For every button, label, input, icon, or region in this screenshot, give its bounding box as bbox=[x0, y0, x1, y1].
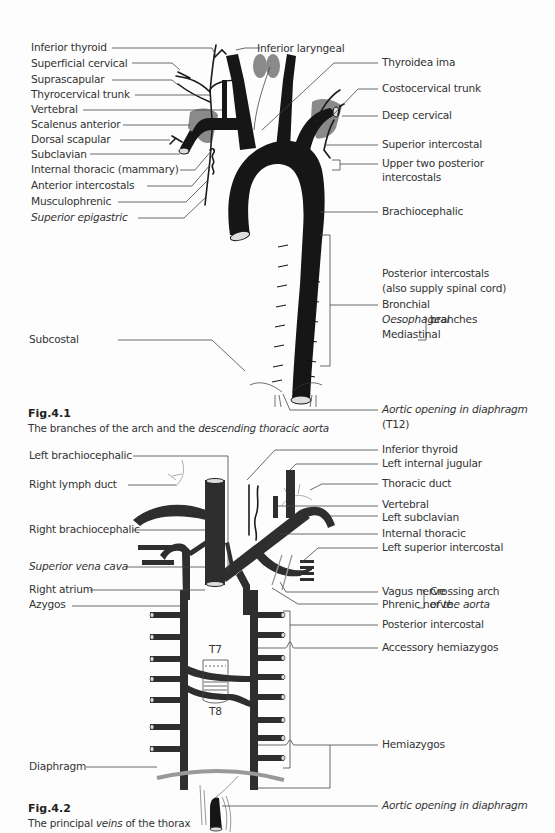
label-superior-vena-cava: Superior vena cava bbox=[29, 560, 128, 572]
thyroid-lobe-right bbox=[266, 54, 280, 78]
label-scalenus-anterior: Scalenus anterior bbox=[31, 118, 121, 130]
label-deep-cervical: Deep cervical bbox=[382, 109, 452, 121]
label-t7: T7 bbox=[208, 643, 222, 655]
label-anterior-intercostals: Anterior intercostals bbox=[31, 179, 134, 191]
fig-4-1-illustration bbox=[170, 45, 344, 407]
label-superior-intercostal: Superior intercostal bbox=[382, 138, 482, 150]
label-right-brachiocephalic: Right brachiocephalic bbox=[29, 523, 140, 535]
dorsal-scapular bbox=[170, 136, 182, 144]
anatomy-figure-page: Inferior thyroid Superficial cervical Su… bbox=[0, 0, 555, 833]
superficial-cervical-artery bbox=[176, 72, 210, 92]
left-posterior-intercostals bbox=[256, 612, 284, 761]
fig-4-2-illustration bbox=[133, 460, 335, 832]
label-diaphragm: Diaphragm bbox=[29, 760, 86, 772]
label-of-the-aorta: of the aorta bbox=[430, 598, 490, 610]
label-t12: (T12) bbox=[382, 418, 409, 430]
label-thyroidea-ima: Thyroidea ima bbox=[381, 56, 455, 68]
label-vertebral: Vertebral bbox=[31, 103, 78, 115]
label-upper-two-posterior: Upper two posterior bbox=[382, 157, 485, 169]
right-intercostal-upper-1 bbox=[138, 545, 173, 550]
diaphragm-crura bbox=[250, 383, 322, 407]
left-brachiocephalic-descending bbox=[236, 570, 250, 615]
label-left-brachiocephalic: Left brachiocephalic bbox=[29, 449, 132, 461]
label-left-superior-intercostal: Left superior intercostal bbox=[382, 541, 503, 553]
right-lymph-duct bbox=[168, 460, 184, 486]
superior-vena-cava bbox=[205, 480, 225, 585]
label-thoracic-duct: Thoracic duct bbox=[381, 477, 451, 489]
fig-4-2-caption: The principal veins of the thorax bbox=[27, 817, 190, 829]
fig-4-2-leader-lines bbox=[72, 450, 424, 806]
svc-top-end bbox=[206, 479, 224, 484]
aorta-cut-end-bottom bbox=[291, 396, 311, 404]
label-azygos: Azygos bbox=[29, 598, 66, 610]
svc-bottom-end bbox=[206, 582, 224, 587]
fig-4-1-leader-lines bbox=[83, 48, 426, 410]
vertebral-artery bbox=[222, 80, 227, 118]
subclavian-stump-end bbox=[179, 148, 189, 154]
vertebral-vein bbox=[273, 496, 278, 518]
thyroid-lobe-left bbox=[253, 54, 267, 78]
label-internal-thoracic: Internal thoracic (mammary) bbox=[31, 163, 179, 175]
left-internal-jugular-vein bbox=[286, 470, 295, 518]
label-left-internal-jugular: Left internal jugular bbox=[382, 457, 483, 469]
right-brachiocephalic-vein bbox=[133, 505, 206, 526]
label-thyrocervical-trunk: Thyrocervical trunk bbox=[30, 88, 131, 100]
fig-4-1-caption: The branches of the arch and the descend… bbox=[27, 422, 329, 434]
svc-tributary bbox=[188, 540, 206, 556]
cross-communicating-vein-upper bbox=[184, 665, 252, 682]
label-right-atrium: Right atrium bbox=[29, 583, 93, 595]
right-intercostal-upper-2 bbox=[142, 560, 174, 565]
label-posterior-intercostal: Posterior intercostal bbox=[382, 618, 484, 630]
label-hemiazygos: Hemiazygos bbox=[382, 738, 445, 750]
label-dorsal-scapular: Dorsal scapular bbox=[31, 133, 111, 145]
label-subcostal: Subcostal bbox=[29, 333, 79, 345]
label-superior-epigastric: Superior epigastric bbox=[31, 211, 128, 223]
label-inferior-thyroid: Inferior thyroid bbox=[31, 41, 107, 53]
label-right-lymph-duct: Right lymph duct bbox=[29, 478, 117, 490]
label-left-subclavian: Left subclavian bbox=[382, 511, 459, 523]
label-t8: T8 bbox=[208, 705, 222, 717]
label-mediastinal: Mediastinal bbox=[382, 328, 440, 340]
label-subclavian: Subclavian bbox=[31, 148, 87, 160]
fig-4-2-caption-title: Fig.4.2 bbox=[28, 802, 71, 815]
label-crossing-arch: Crossing arch bbox=[430, 585, 499, 597]
label-posterior-intercostals: Posterior intercostals bbox=[382, 267, 489, 279]
label-branches: branches bbox=[430, 313, 477, 325]
label-vertebral-vein: Vertebral bbox=[382, 498, 429, 510]
label-aortic-opening-1: Aortic opening in diaphragm bbox=[381, 403, 528, 415]
label-suprascapular: Suprascapular bbox=[31, 73, 105, 85]
label-intercostals: intercostals bbox=[382, 171, 441, 183]
label-inferior-thyroid-vein: Inferior thyroid bbox=[382, 443, 458, 455]
fig-4-1-caption-title: Fig.4.1 bbox=[28, 407, 71, 420]
right-posterior-intercostals bbox=[150, 612, 182, 752]
label-internal-thoracic-vein: Internal thoracic bbox=[382, 527, 466, 539]
label-accessory-hemiazygos: Accessory hemiazygos bbox=[382, 641, 498, 653]
label-musculophrenic: Musculophrenic bbox=[31, 195, 111, 207]
label-costocervical-trunk: Costocervical trunk bbox=[382, 82, 482, 94]
aorta-through-diaphragm bbox=[210, 797, 222, 830]
label-aortic-opening-2: Aortic opening in diaphragm bbox=[381, 799, 528, 811]
label-superficial-cervical: Superficial cervical bbox=[31, 57, 127, 69]
fig-4-1-labels: Inferior thyroid Superficial cervical Su… bbox=[27, 41, 528, 434]
left-intercostal-ends bbox=[281, 613, 285, 761]
inferior-thyroid-vein-2 bbox=[255, 486, 258, 540]
label-inferior-laryngeal: Inferior laryngeal bbox=[257, 42, 344, 54]
label-bronchial: Bronchial bbox=[382, 298, 430, 310]
aorta-cut-end-fig2 bbox=[210, 827, 222, 831]
label-spinal-cord: (also supply spinal cord) bbox=[382, 282, 506, 294]
label-brachiocephalic: Brachiocephalic bbox=[382, 205, 463, 217]
brachiocephalic-trunk bbox=[226, 54, 256, 150]
diaphragm bbox=[157, 771, 284, 780]
